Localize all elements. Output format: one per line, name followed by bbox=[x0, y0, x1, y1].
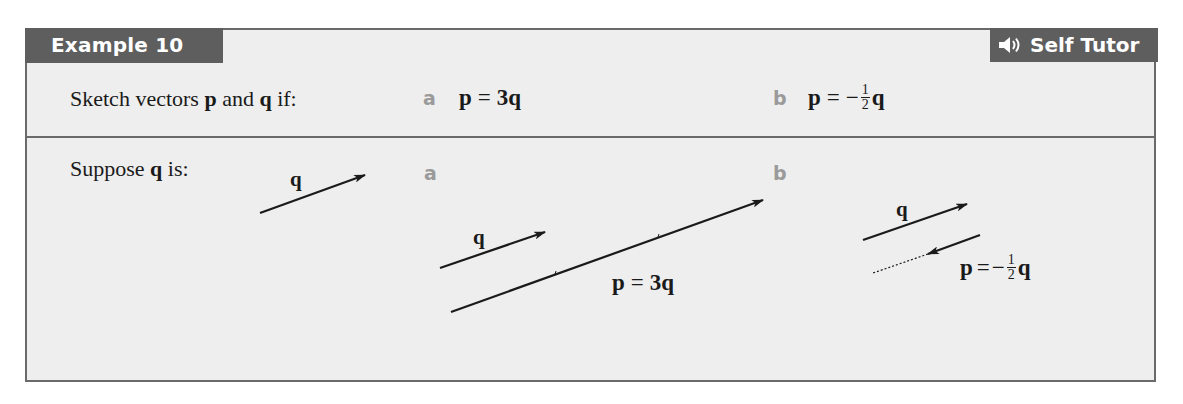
a-q-vector bbox=[440, 232, 545, 268]
b-p-vector bbox=[928, 235, 980, 254]
a-p-vector bbox=[451, 200, 763, 312]
sample-q-vector bbox=[260, 175, 365, 213]
b-q-vector bbox=[863, 204, 967, 240]
vector-diagram bbox=[0, 0, 1183, 404]
b-dotted-extension bbox=[873, 254, 928, 273]
